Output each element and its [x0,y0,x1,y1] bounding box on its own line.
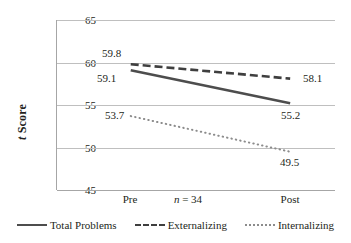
legend-swatch-dashed-icon [135,224,165,226]
x-axis-annotation-rest: = 34 [179,193,202,205]
legend-swatch-dotted-icon [245,224,275,226]
legend-item-total-problems[interactable]: Total Problems [17,220,117,231]
data-label-total-problems-pre: 59.1 [97,73,116,84]
data-label-internalizing-post: 49.5 [280,157,299,168]
legend-label-internalizing: Internalizing [278,220,334,231]
y-axis-title: t Score [15,103,30,139]
legend-label-externalizing: Externalizing [168,220,227,231]
x-tick-label-post: Post [281,194,300,205]
legend-item-internalizing[interactable]: Internalizing [245,220,334,231]
x-axis-line [57,190,335,191]
x-tick-label-pre: Pre [123,194,138,205]
data-label-internalizing-pre: 53.7 [105,110,124,121]
line-chart: t Score 65 60 55 50 45 59.8 59.1 53.7 58… [0,0,351,243]
legend-label-total-problems: Total Problems [50,220,117,231]
data-label-externalizing-post: 58.1 [303,73,322,84]
series-line-internalizing [131,116,290,152]
series-line-total-problems [131,70,290,103]
x-axis-annotation: n = 34 [174,194,202,205]
legend: Total Problems Externalizing Internalizi… [0,214,351,236]
legend-item-externalizing[interactable]: Externalizing [135,220,227,231]
data-label-total-problems-post: 55.2 [281,110,300,121]
legend-swatch-solid-icon [17,224,47,226]
series-line-externalizing [131,64,290,78]
y-axis-title-italic: t [15,136,29,140]
y-axis-title-rest: Score [15,103,29,136]
data-label-externalizing-pre: 59.8 [102,48,121,59]
